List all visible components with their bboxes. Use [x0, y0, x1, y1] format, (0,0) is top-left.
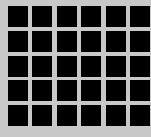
grid-cell: [57, 31, 77, 52]
grid-cell: [106, 31, 126, 52]
grid-cell: [130, 105, 150, 126]
grid-cell: [81, 80, 101, 101]
grid-cell: [32, 80, 52, 101]
grid-cell: [130, 31, 150, 52]
grid-cell: [81, 56, 101, 77]
grid-cell: [57, 80, 77, 101]
grid-cell: [57, 6, 77, 27]
grid-cell: [106, 6, 126, 27]
grid-cell: [81, 6, 101, 27]
grid-cell: [81, 31, 101, 52]
grid-cell: [32, 31, 52, 52]
grid-cell: [130, 80, 150, 101]
grid-cell: [8, 6, 28, 27]
grid-cell: [81, 105, 101, 126]
grid-cell: [32, 105, 52, 126]
square-grid: [0, 0, 151, 137]
grid-cell: [8, 105, 28, 126]
grid-cell: [32, 56, 52, 77]
grid-cell: [8, 80, 28, 101]
grid-cell: [57, 105, 77, 126]
grid-cell: [32, 6, 52, 27]
grid-cell: [8, 31, 28, 52]
grid-cell: [57, 56, 77, 77]
grid-cell: [130, 6, 150, 27]
grid-cell: [106, 56, 126, 77]
grid-cell: [130, 56, 150, 77]
grid-cell: [106, 105, 126, 126]
grid-cell: [106, 80, 126, 101]
grid-cell: [8, 56, 28, 77]
